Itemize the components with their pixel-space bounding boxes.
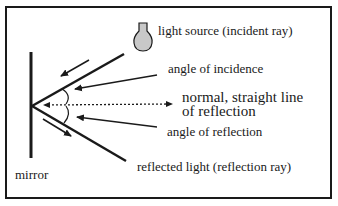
normal-arrowhead-left xyxy=(43,102,50,108)
label-light-source: light source (incident ray) xyxy=(158,24,293,38)
incident-direction-arrow xyxy=(61,60,89,76)
label-normal-line2: of reflection xyxy=(182,104,256,118)
light-bulb-icon xyxy=(134,23,152,51)
incident-ray xyxy=(32,54,124,106)
normal-line xyxy=(48,104,168,105)
label-mirror: mirror xyxy=(15,168,48,182)
angle-incidence-arc xyxy=(62,89,68,104)
angle-reflection-arc xyxy=(64,106,69,123)
label-angle-reflection: angle of reflection xyxy=(167,125,262,139)
normal-arrowhead-right xyxy=(166,101,173,107)
label-normal-line1: normal, straight line xyxy=(182,90,303,104)
reflected-ray xyxy=(32,106,126,161)
label-angle-incidence: angle of incidence xyxy=(168,62,263,76)
label-reflected-light: reflected light (reflection ray) xyxy=(137,160,291,174)
angle-incidence-pointer xyxy=(75,75,157,89)
angle-reflection-pointer xyxy=(77,117,157,127)
